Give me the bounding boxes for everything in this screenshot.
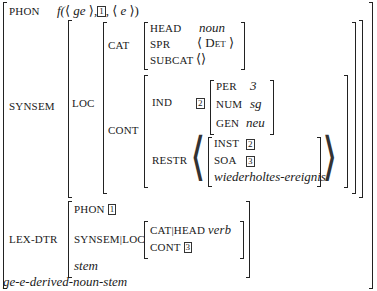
ind-label: IND: [152, 96, 172, 108]
comma: ,: [106, 3, 109, 18]
synsem-loc-label: SYNSEM|LOC: [74, 233, 145, 245]
phon-label: PHON: [9, 5, 40, 17]
phon-value: f(⟨ ge ⟩,1, ⟨ e ⟩): [57, 3, 139, 19]
per-label: PER: [216, 80, 237, 92]
gen-value: neu: [246, 115, 265, 131]
ind-bracket-left: [210, 80, 214, 135]
lex-dtr-label: LEX-DTR: [9, 233, 57, 245]
lex-cont-label: CONT 3: [150, 241, 192, 253]
soa-label: SOA: [214, 154, 237, 166]
cat-head-label: CAT|HEAD verb: [150, 223, 231, 238]
ind-bracket-right: [270, 80, 274, 135]
tag-3: 3: [184, 242, 193, 253]
cat-head-path: CAT|HEAD: [150, 224, 205, 236]
cont-bracket-right: [344, 75, 348, 188]
subcat-label: SUBCAT: [150, 54, 193, 66]
gen-label: GEN: [216, 117, 239, 129]
tag-1: 1: [97, 6, 106, 17]
loc-bracket-left: [103, 22, 107, 194]
restr-type: wiederholtes-ereignis: [214, 169, 326, 185]
cont-bracket-left: [144, 75, 148, 188]
phon-ge: ge: [73, 3, 85, 18]
angle-open: ⟨: [112, 3, 117, 18]
tag-1: 1: [108, 204, 117, 215]
synsem-bracket-right: [359, 20, 363, 198]
avm-type: ge-e-derived-noun-stem: [3, 274, 127, 290]
head-label: HEAD: [150, 22, 181, 34]
restr-angle-open: ⟨: [190, 130, 206, 182]
restr-angle-close: ⟩: [322, 130, 338, 182]
outer-bracket-right: [369, 2, 373, 289]
inst-tag-2: 2: [246, 139, 255, 150]
cont-label: CONT: [108, 124, 139, 136]
ind-tag-2: 2: [196, 98, 205, 109]
cont-label: CONT: [150, 241, 181, 253]
spr-label: SPR: [150, 38, 170, 50]
lex-dtr-bracket-left: [68, 201, 72, 278]
cat-label: CAT: [108, 39, 129, 51]
synsem-label: SYNSEM: [9, 100, 55, 112]
head-value: noun: [199, 20, 225, 36]
cat-head-value: verb: [208, 223, 231, 237]
lex-dtr-type: stem: [74, 258, 98, 274]
lex-dtr-bracket-right: [246, 201, 250, 278]
loc-bracket-right: [352, 22, 356, 194]
angle-open: ⟨: [65, 3, 70, 18]
per-value: 3: [250, 78, 257, 94]
lex-loc-bracket-right: [240, 221, 244, 259]
spr-value: ⟨ Det ⟩: [197, 35, 234, 51]
subcat-value: ⟨⟩: [196, 51, 206, 67]
phon-function: f(: [57, 3, 65, 18]
lex-dtr-phon-label: PHON 1: [74, 203, 116, 215]
num-value: sg: [250, 96, 262, 112]
soa-tag-3: 3: [246, 156, 255, 167]
loc-label: LOC: [72, 97, 95, 109]
angle-close: ⟩): [130, 3, 139, 18]
outer-bracket-left: [3, 2, 7, 289]
restr-bracket-left: [208, 137, 212, 187]
cat-bracket-left: [144, 22, 148, 70]
lex-loc-bracket-left: [144, 221, 148, 259]
phon-label: PHON: [74, 203, 105, 215]
num-label: NUM: [216, 98, 242, 110]
synsem-bracket-left: [68, 20, 72, 198]
inst-label: INST: [214, 137, 239, 149]
angle-close: ⟩,: [89, 3, 97, 18]
cat-bracket-right: [241, 22, 245, 70]
restr-label: RESTR: [152, 154, 187, 166]
phon-e: e: [120, 3, 126, 18]
